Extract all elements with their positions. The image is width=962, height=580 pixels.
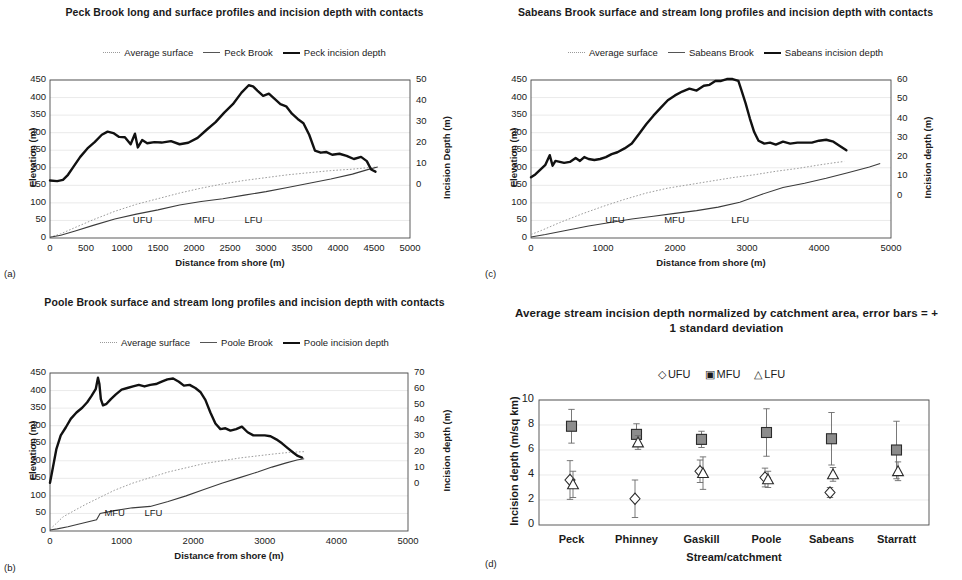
contact-label-ufu: UFU <box>605 214 625 225</box>
y2-tick-label: 70 <box>414 366 436 377</box>
panel-a-tag: (a) <box>4 268 16 279</box>
x-tick-label: 5000 <box>866 242 916 253</box>
x-tick-label: 2000 <box>168 535 218 546</box>
x-tick-label: 4000 <box>794 242 844 253</box>
y2-tick-label: 0 <box>897 189 919 200</box>
y2-axis-label: Incision depth (m) <box>922 79 933 237</box>
y2-tick-label: 30 <box>416 115 438 126</box>
series-sabeans-incision-depth <box>531 79 846 177</box>
series-lfu <box>568 436 904 498</box>
marker-mfu <box>632 429 642 439</box>
panel-b: Poole Brook surface and stream long prof… <box>0 290 481 580</box>
panel-c: Sabeans Brook surface and stream long pr… <box>481 0 962 290</box>
marker-mfu <box>697 434 707 444</box>
contact-label-lfu: LFU <box>244 214 262 225</box>
y2-tick-label: 0 <box>416 178 438 189</box>
series-average-surface <box>50 452 304 530</box>
series-poole-brook <box>50 459 304 530</box>
contact-label-mfu: MFU <box>194 214 215 225</box>
x-tick-label: 4000 <box>311 535 361 546</box>
y2-tick-label: 20 <box>414 445 436 456</box>
y2-tick-label: 20 <box>897 150 919 161</box>
y2-tick-label: 10 <box>414 461 436 472</box>
x-tick-label: 0 <box>506 242 556 253</box>
marker-mfu <box>892 445 902 455</box>
y2-tick-label: 10 <box>416 157 438 168</box>
y-axis-label: Incision depth (m/sq km) <box>507 373 519 548</box>
x-axis-label: Distance from shore (m) <box>40 257 420 268</box>
x-axis-label: Stream/catchment <box>539 551 929 563</box>
category-label-starratt: Starratt <box>852 533 942 545</box>
y2-axis-label: Incision Depth (m) <box>441 79 452 237</box>
y2-tick-label: 20 <box>416 136 438 147</box>
y2-tick-label: 50 <box>416 73 438 84</box>
x-axis-label: Distance from shore (m) <box>521 257 901 268</box>
series-average-surface <box>531 161 844 234</box>
marker-ufu <box>825 487 835 498</box>
panel-b-tag: (b) <box>4 562 16 573</box>
x-axis-label: Distance from shore (m) <box>40 550 418 561</box>
y2-tick-label: 50 <box>897 92 919 103</box>
y-axis-label: Elevation (m) <box>27 372 38 530</box>
y2-tick-label: 40 <box>416 94 438 105</box>
x-tick-label: 1000 <box>97 535 147 546</box>
series-mfu <box>567 409 902 479</box>
y2-tick-label: 60 <box>414 382 436 393</box>
marker-ufu <box>630 493 640 504</box>
series-ufu <box>565 460 835 518</box>
plot-frame <box>531 80 891 238</box>
y2-tick-label: 60 <box>897 73 919 84</box>
panel-c-tag: (c) <box>485 268 496 279</box>
plot-frame <box>539 400 929 525</box>
panel-d-tag: (d) <box>485 558 497 569</box>
marker-mfu <box>827 434 837 444</box>
x-tick-label: 3000 <box>722 242 772 253</box>
marker-lfu <box>828 469 839 479</box>
y2-tick-label: 40 <box>897 112 919 123</box>
panel-d: Average stream incision depth normalized… <box>481 290 962 580</box>
series-peck-brook <box>50 167 378 237</box>
y-axis-label: Elevation (m) <box>27 79 38 237</box>
y2-tick-label: 0 <box>414 477 436 488</box>
x-tick-label: 3000 <box>240 535 290 546</box>
contact-label-lfu: LFU <box>145 507 163 518</box>
x-tick-label: 5000 <box>385 242 435 253</box>
marker-mfu <box>762 428 772 438</box>
y2-tick-label: 30 <box>897 131 919 142</box>
y2-axis-label: Incision depth (m) <box>441 372 452 530</box>
y-axis-label: Elevation (m) <box>508 79 519 237</box>
x-tick-label: 5000 <box>383 535 433 546</box>
y2-tick-label: 30 <box>414 429 436 440</box>
marker-mfu <box>567 421 577 431</box>
contact-label-ufu: UFU <box>133 214 153 225</box>
y2-tick-label: 10 <box>897 169 919 180</box>
contact-label-lfu: LFU <box>731 214 749 225</box>
figure-root: Peck Brook long and surface profiles and… <box>0 0 962 580</box>
y2-tick-label: 50 <box>414 398 436 409</box>
marker-lfu <box>893 466 904 476</box>
x-tick-label: 0 <box>25 535 75 546</box>
series-poole-incision-depth <box>50 378 302 483</box>
y2-tick-label: 40 <box>414 413 436 424</box>
contact-label-mfu: MFU <box>104 507 125 518</box>
panel-a: Peck Brook long and surface profiles and… <box>0 0 481 290</box>
x-tick-label: 2000 <box>650 242 700 253</box>
series-sabeans-brook <box>531 164 880 237</box>
series-average-surface <box>50 167 378 237</box>
series-peck-incision-depth <box>50 85 375 181</box>
contact-label-mfu: MFU <box>664 214 685 225</box>
x-tick-label: 1000 <box>578 242 628 253</box>
